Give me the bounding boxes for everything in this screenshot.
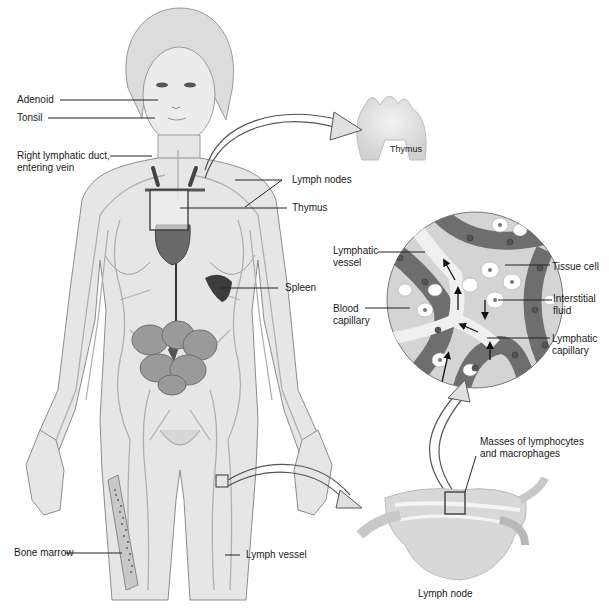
- label-interstitial-fluid-line1: Interstitial: [553, 293, 596, 305]
- label-blood-capillary-line1: Blood: [333, 303, 370, 315]
- label-right-lymphatic-duct-line1: Right lymphatic duct,: [17, 150, 110, 162]
- arrow-to-capillary-inset: [430, 395, 455, 495]
- label-masses-line2: and macrophages: [480, 448, 584, 460]
- label-lymphatic-capillary-line1: Lymphatic: [552, 333, 597, 345]
- lymphatic-system-diagram: [0, 0, 609, 609]
- label-right-lymphatic-duct: Right lymphatic duct, entering vein: [17, 150, 110, 174]
- label-interstitial-fluid: Interstitial fluid: [553, 293, 596, 317]
- label-tissue-cell: Tissue cell: [552, 261, 599, 273]
- label-masses-line1: Masses of lymphocytes: [480, 436, 584, 448]
- arrow-to-thymus-inset: [205, 114, 340, 170]
- label-lymphatic-capillary-line2: capillary: [552, 345, 597, 357]
- label-lymphatic-vessel: Lymphatic vessel: [333, 245, 378, 269]
- label-spleen: Spleen: [285, 282, 316, 294]
- thymus-box: [150, 190, 188, 230]
- lymph-node-illustration: [360, 478, 545, 580]
- label-thymus-body: Thymus: [292, 202, 328, 214]
- label-masses-of-lymphocytes: Masses of lymphocytes and macrophages: [480, 436, 584, 460]
- label-lymph-vessel: Lymph vessel: [246, 549, 307, 561]
- neck: [158, 135, 200, 160]
- label-bone-marrow: Bone marrow: [14, 547, 73, 559]
- label-lymph-nodes: Lymph nodes: [292, 174, 352, 186]
- label-tonsil: Tonsil: [17, 112, 43, 124]
- label-right-lymphatic-duct-line2: entering vein: [17, 162, 110, 174]
- label-interstitial-fluid-line2: fluid: [553, 305, 596, 317]
- human-body-figure: [26, 8, 332, 600]
- label-lymphatic-capillary: Lymphatic capillary: [552, 333, 597, 357]
- label-adenoid: Adenoid: [17, 94, 54, 106]
- label-lymphatic-vessel-line2: vessel: [333, 257, 378, 269]
- label-lymph-node: Lymph node: [418, 588, 473, 600]
- label-blood-capillary: Blood capillary: [333, 303, 370, 327]
- capillary-bed-inset: [380, 212, 570, 400]
- face: [143, 47, 215, 143]
- label-thymus-inset: Thymus: [390, 143, 422, 155]
- label-blood-capillary-line2: capillary: [333, 315, 370, 327]
- label-lymphatic-vessel-line1: Lymphatic: [333, 245, 378, 257]
